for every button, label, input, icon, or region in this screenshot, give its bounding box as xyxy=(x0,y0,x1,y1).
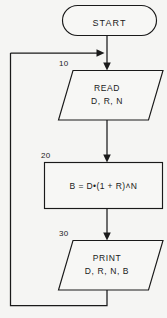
arrowhead-into-process xyxy=(103,155,111,163)
arrowhead-loop-into-main xyxy=(97,49,105,57)
flowchart-canvas: START 10 READ D, R, N 20 B xyxy=(0,0,167,318)
print-parallelogram-shape xyxy=(59,241,164,291)
read-label-variables: D, R, N xyxy=(91,96,123,106)
flowchart-svg: START 10 READ D, R, N 20 B xyxy=(0,0,167,318)
node-start: START xyxy=(63,6,157,36)
read-parallelogram-shape xyxy=(59,71,164,121)
line-number-10: 10 xyxy=(59,59,69,68)
line-number-20: 20 xyxy=(41,151,51,160)
line-number-30: 30 xyxy=(59,229,69,238)
node-print: PRINT D, R, N, B xyxy=(59,241,164,291)
arrowhead-into-print xyxy=(103,233,111,241)
print-label-keyword: PRINT xyxy=(93,253,122,263)
print-label-variables: D, R, N, B xyxy=(85,266,129,276)
connector-process-to-print xyxy=(103,209,111,241)
read-label-keyword: READ xyxy=(94,83,120,93)
start-label: START xyxy=(92,18,126,28)
process-formula-label: B = D•(1 + R)˄N xyxy=(70,181,138,191)
node-read: READ D, R, N xyxy=(59,71,164,121)
node-process: B = D•(1 + R)˄N xyxy=(45,163,163,209)
connector-read-to-process xyxy=(103,120,111,163)
connector-loop-join xyxy=(11,49,105,57)
arrowhead-into-read xyxy=(103,63,111,71)
